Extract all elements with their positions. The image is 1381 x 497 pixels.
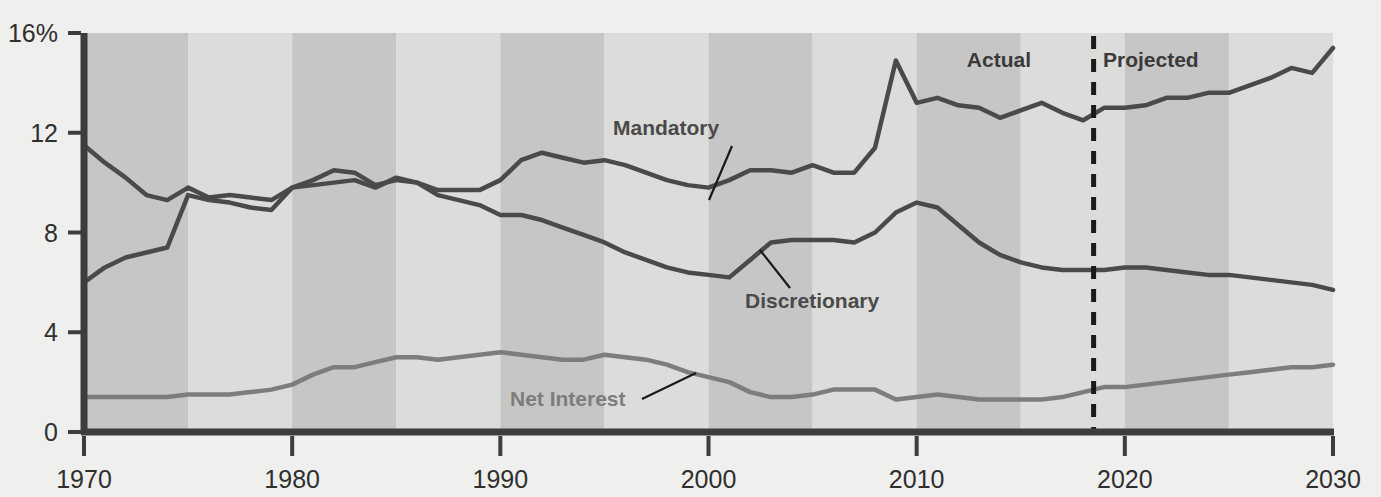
year-band <box>292 33 396 432</box>
x-tick-label: 1970 <box>56 465 112 493</box>
x-tick-label: 2000 <box>681 465 737 493</box>
x-tick-label: 1980 <box>264 465 320 493</box>
year-band <box>813 33 917 432</box>
y-tick-label: 8 <box>44 219 58 247</box>
y-tick-label: 0 <box>44 418 58 446</box>
projected-label: Projected <box>1103 48 1199 71</box>
chart-canvas: 0481216% 1970198019902000201020202030 Ma… <box>0 0 1381 497</box>
net-interest-label: Net Interest <box>510 387 626 410</box>
y-tick-label: 4 <box>44 318 58 346</box>
y-tick-label: 12 <box>30 119 58 147</box>
budget-outlays-chart: 0481216% 1970198019902000201020202030 Ma… <box>0 0 1381 497</box>
x-tick-label: 2030 <box>1305 465 1361 493</box>
x-tick-label: 2010 <box>889 465 945 493</box>
x-tick-label: 1990 <box>473 465 529 493</box>
background-year-bands <box>84 33 1333 432</box>
year-band <box>188 33 292 432</box>
year-band <box>1021 33 1125 432</box>
year-band <box>396 33 500 432</box>
year-band <box>500 33 604 432</box>
x-tick-label: 2020 <box>1097 465 1153 493</box>
mandatory-label: Mandatory <box>613 116 720 139</box>
y-tick-label: 16% <box>8 19 58 47</box>
discretionary-label: Discretionary <box>745 289 880 312</box>
actual-label: Actual <box>967 48 1031 71</box>
year-band <box>709 33 813 432</box>
